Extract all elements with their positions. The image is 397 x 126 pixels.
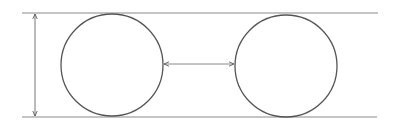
left-circle: [61, 14, 163, 116]
diagram-canvas: [0, 0, 397, 126]
right-circle: [235, 15, 337, 117]
